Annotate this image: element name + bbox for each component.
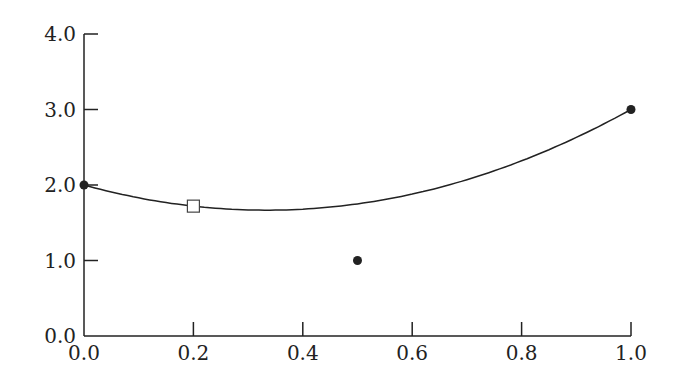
x-tick-label: 0.4 bbox=[287, 341, 319, 365]
x-tick-label: 1.0 bbox=[615, 341, 647, 365]
fitted-curve bbox=[84, 110, 631, 211]
x-tick-label: 0.2 bbox=[177, 341, 209, 365]
data-point bbox=[353, 256, 362, 265]
x-tick-label: 0.0 bbox=[68, 341, 100, 365]
y-tick-label: 3.0 bbox=[44, 98, 76, 122]
x-tick-label: 0.8 bbox=[506, 341, 538, 365]
chart: 0.01.02.03.04.0 0.00.20.40.60.81.0 bbox=[0, 0, 675, 388]
data-point bbox=[627, 105, 636, 114]
y-tick-label: 2.0 bbox=[44, 173, 76, 197]
y-tick-label: 1.0 bbox=[44, 249, 76, 273]
y-tick-label: 4.0 bbox=[44, 22, 76, 46]
data-markers bbox=[80, 105, 636, 265]
x-ticks: 0.00.20.40.60.81.0 bbox=[68, 322, 647, 365]
x-tick-label: 0.6 bbox=[396, 341, 428, 365]
axes bbox=[84, 34, 631, 336]
evaluated-point-square bbox=[187, 200, 199, 212]
y-ticks: 0.01.02.03.04.0 bbox=[44, 22, 98, 348]
data-point bbox=[80, 181, 89, 190]
